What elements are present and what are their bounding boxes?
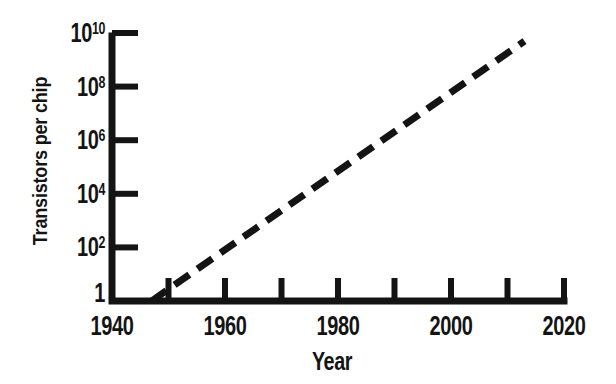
x-tick-label-1960: 1960 (192, 312, 259, 340)
y-tick-label-10^6: 106 (38, 126, 105, 154)
y-axis-title: Transistors per chip (30, 77, 50, 245)
y-tick-label-10^8: 108 (38, 73, 105, 101)
transistors-per-chip-chart: Transistors per chip Year 19401960198020… (0, 0, 616, 384)
x-axis-title: Year (312, 347, 352, 375)
x-tick-label-2020: 2020 (531, 312, 598, 340)
x-tick-label-2000: 2000 (418, 312, 485, 340)
transistors-per-chip-trend-line (152, 41, 525, 301)
y-tick-label-10^4: 104 (38, 180, 105, 208)
y-tick-label-10^2: 102 (38, 233, 105, 261)
y-tick-label-10^10: 1010 (38, 19, 105, 47)
x-tick-label-1980: 1980 (305, 312, 372, 340)
y-tick-label-1: 1 (38, 279, 105, 307)
x-tick-label-1940: 1940 (79, 312, 146, 340)
